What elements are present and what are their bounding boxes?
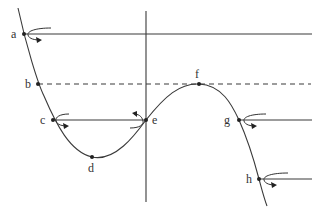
rotation-arrow-h <box>264 173 288 188</box>
rotation-arrow-g <box>244 114 266 129</box>
point-b <box>36 82 40 86</box>
point-d <box>90 155 94 159</box>
cubic-curve-diagram: a b c d e f g h <box>0 0 327 212</box>
label-f: f <box>195 67 199 81</box>
point-h <box>257 177 261 181</box>
label-c: c <box>40 113 45 127</box>
point-a <box>22 32 26 36</box>
label-a: a <box>11 27 17 41</box>
label-h: h <box>246 172 252 186</box>
label-d: d <box>88 161 94 175</box>
point-f <box>197 82 201 86</box>
point-e <box>144 118 148 122</box>
point-c <box>51 118 55 122</box>
label-b: b <box>25 77 31 91</box>
cubic-curve <box>18 8 267 206</box>
rotation-arrow-a <box>28 28 51 43</box>
point-g <box>237 118 241 122</box>
label-e: e <box>152 113 157 127</box>
label-g: g <box>224 113 230 127</box>
rotation-arrow-c <box>56 114 69 129</box>
